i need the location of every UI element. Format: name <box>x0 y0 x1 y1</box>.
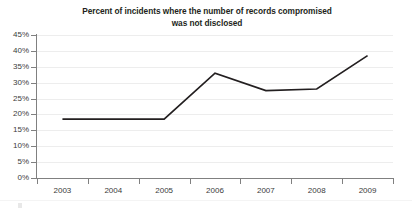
y-axis-tick <box>31 114 36 115</box>
y-axis-tick-label: 20% <box>1 110 29 118</box>
x-axis-tick-label: 2008 <box>290 186 344 195</box>
y-axis-tick-label: 30% <box>1 79 29 87</box>
x-axis-tick <box>88 179 89 184</box>
y-axis-tick <box>31 130 36 131</box>
y-axis-tick <box>31 146 36 147</box>
y-axis-tick-label: 35% <box>1 63 29 71</box>
y-axis-tick-label: 10% <box>1 142 29 150</box>
y-axis-tick-label: 45% <box>1 31 29 39</box>
chart-title: Percent of incidents where the number of… <box>26 6 388 29</box>
y-axis-tick-labels: 0%5%10%15%20%25%30%35%40%45% <box>0 0 29 212</box>
x-axis-tick-label: 2003 <box>35 186 89 195</box>
x-axis-tick <box>240 179 241 184</box>
y-axis-tick <box>31 178 36 179</box>
chart-title-line-1: Percent of incidents where the number of… <box>26 6 388 18</box>
y-axis-tick-label: 5% <box>1 158 29 166</box>
y-axis-tick-label: 40% <box>1 47 29 55</box>
x-axis-tick <box>342 179 343 184</box>
y-axis-tick-label: 15% <box>1 126 29 134</box>
chart-title-line-2: was not disclosed <box>26 18 388 30</box>
x-axis-tick-label: 2005 <box>137 186 191 195</box>
y-axis-tick <box>31 35 36 36</box>
x-axis-tick <box>291 179 292 184</box>
chart-figure: Percent of incidents where the number of… <box>0 0 412 212</box>
y-axis-tick <box>31 83 36 84</box>
series-line-not-disclosed <box>37 35 393 178</box>
scan-artifact <box>18 203 22 208</box>
y-axis-tick-label: 0% <box>1 174 29 182</box>
y-axis-tick-label: 25% <box>1 95 29 103</box>
x-axis-tick-label: 2009 <box>341 186 395 195</box>
x-axis-line <box>36 178 394 179</box>
figure-bottom-edge <box>0 200 412 201</box>
y-axis-tick <box>31 99 36 100</box>
y-axis-tick <box>31 162 36 163</box>
x-axis-tick <box>37 179 38 184</box>
x-axis-tick-label: 2004 <box>86 186 140 195</box>
x-axis-tick-label: 2006 <box>188 186 242 195</box>
y-axis-tick <box>31 51 36 52</box>
x-axis-tick-label: 2007 <box>239 186 293 195</box>
x-axis-tick <box>393 179 394 184</box>
y-axis-tick <box>31 67 36 68</box>
x-axis-tick <box>190 179 191 184</box>
x-axis-tick <box>139 179 140 184</box>
